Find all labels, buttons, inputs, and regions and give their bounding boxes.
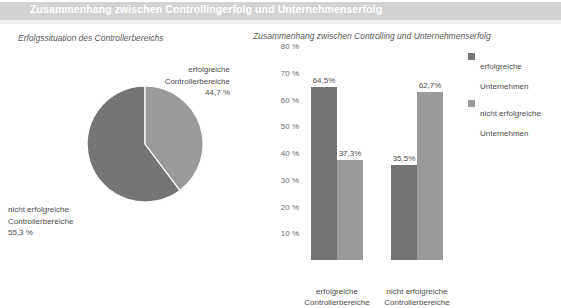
y-axis-tick-20: 20 % [281, 202, 299, 211]
pie-label-nicht-erfolgreiche-value: 55,3 % [8, 227, 148, 239]
bar-chart-panel: Zusammenhang zwischen Controlling und Un… [250, 24, 561, 299]
category-label-2: nicht erfolgreicheControllerbereiche [384, 286, 449, 308]
pie-label-erfolgreiche-value: 44,7 % [120, 87, 230, 99]
bar-2-nicht-erfolgreiche[interactable] [417, 92, 443, 260]
category-label-line2: Controllerbereiche [304, 297, 369, 308]
bar-value-label: 64,5% [313, 76, 336, 85]
chart-legend: erfolgreiche Unternehmen nicht erfolgrei… [468, 52, 561, 146]
y-axis-tick-40: 40 % [281, 149, 299, 158]
y-axis-tick-30: 30 % [281, 175, 299, 184]
legend-label-erfolgreiche-unternehmen: erfolgreiche Unternehmen [480, 52, 528, 92]
page-title: Zusammenhang zwischen Controllingerfolg … [30, 3, 382, 15]
bar-1-nicht-erfolgreiche[interactable] [337, 160, 363, 260]
bar-chart-plot-area: 10 %20 %30 %40 %50 %60 %70 %80 % 64,5%37… [305, 46, 465, 260]
pie-label-erfolgreiche-line1: erfolgreiche [120, 64, 230, 76]
pie-label-nicht-erfolgreiche-line2: Controllerbereiche [8, 216, 148, 228]
legend-label-line1: erfolgreiche [480, 62, 522, 71]
y-axis-tick-10: 10 % [281, 229, 299, 238]
bar-1-erfolgreiche[interactable] [311, 87, 337, 260]
bar-value-label: 62,7% [419, 81, 442, 90]
legend-swatch-icon-dark [468, 53, 475, 60]
y-axis-tick-60: 60 % [281, 95, 299, 104]
pie-label-nicht-erfolgreiche: nicht erfolgreiche Controllerbereiche 55… [8, 204, 148, 239]
legend-label-line2: Unternehmen [480, 129, 528, 138]
category-label-line2: Controllerbereiche [384, 297, 449, 308]
category-label-1: erfolgreicheControllerbereiche [304, 286, 369, 308]
bar-chart-subtitle: Zusammenhang zwischen Controlling und Un… [253, 31, 491, 41]
category-label-line1: erfolgreiche [304, 286, 369, 297]
pie-label-erfolgreiche: erfolgreiche Controllerbereiche 44,7 % [120, 64, 230, 99]
legend-item-erfolgreiche-unternehmen[interactable]: erfolgreiche Unternehmen [468, 52, 561, 92]
legend-swatch-icon-light [468, 100, 475, 107]
pie-chart-panel: Erfolgssituation des Controllerbereichs … [0, 24, 250, 299]
y-axis-tick-80: 80 % [281, 42, 299, 51]
bar-value-label: 35,5% [393, 154, 416, 163]
legend-label-nicht-erfolgreiche-unternehmen: nicht erfolgreiche Unternehmen [480, 99, 541, 139]
y-axis-tick-70: 70 % [281, 68, 299, 77]
bar-value-label: 37,3% [339, 149, 362, 158]
pie-label-nicht-erfolgreiche-line1: nicht erfolgreiche [8, 204, 148, 216]
legend-label-line2: Unternehmen [480, 82, 528, 91]
bar-2-erfolgreiche[interactable] [391, 165, 417, 260]
pie-chart-subtitle: Erfolgssituation des Controllerbereichs [18, 33, 164, 43]
pie-chart-graphic [85, 84, 205, 204]
y-axis-tick-50: 50 % [281, 122, 299, 131]
legend-label-line1: nicht erfolgreiche [480, 109, 541, 118]
category-label-line1: nicht erfolgreiche [384, 286, 449, 297]
legend-item-nicht-erfolgreiche-unternehmen[interactable]: nicht erfolgreiche Unternehmen [468, 99, 561, 139]
pie-label-erfolgreiche-line2: Controllerbereiche [120, 76, 230, 88]
